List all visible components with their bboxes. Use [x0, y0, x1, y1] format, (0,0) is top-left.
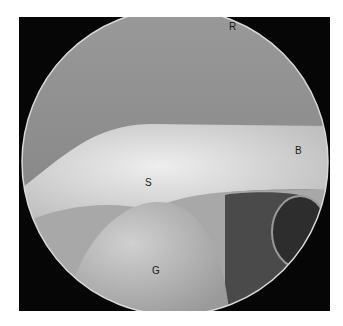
label-r: R: [229, 22, 236, 32]
image-frame: [19, 17, 330, 311]
label-g: G: [152, 266, 160, 276]
label-s: S: [145, 178, 152, 188]
arthroscopic-view: [19, 17, 330, 311]
label-b: B: [295, 146, 302, 156]
